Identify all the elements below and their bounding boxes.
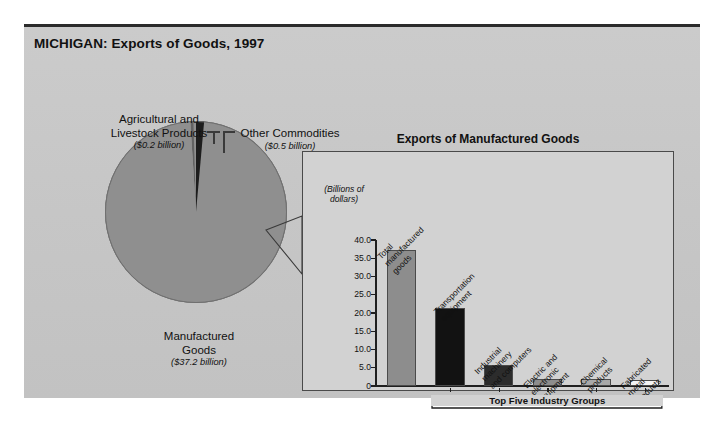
y-axis-tick [371,312,376,313]
y-axis-tick [371,385,376,386]
pie-label-manufactured-goods: Manufactured Goods ($37.2 billion) [119,330,279,368]
pie-label-agricultural-line1: Agricultural and [84,113,234,127]
y-axis-tick-label: 25.0 [331,289,371,299]
pie-label-agricultural: Agricultural and Livestock Products ($0.… [84,113,234,151]
y-axis-tick [371,276,376,277]
y-axis-tick-label: 40.0 [331,235,371,245]
y-axis-tick-label: 10.0 [331,344,371,354]
y-axis-tick [371,331,376,332]
bar-chart-panel: (Billions of dollars) 40.035.030.025.020… [302,151,674,391]
pie-label-manufactured-line1: Manufactured [119,330,279,344]
y-axis-tick [371,258,376,259]
y-axis-tick-label: 5.0 [331,362,371,372]
bar-series [377,240,669,386]
y-axis-tick-label: 35.0 [331,253,371,263]
y-axis-tick-label: 15.0 [331,326,371,336]
x-axis-tick [596,388,597,392]
figure-panel: MICHIGAN: Exports of Goods, 1997 Agricul… [24,24,700,398]
x-axis-tick [499,388,500,392]
y-axis-tick-labels: 40.035.030.025.020.015.010.05.00 [327,152,371,390]
y-axis-tick [371,294,376,295]
y-axis-tick [371,239,376,240]
bar [435,308,464,386]
y-axis-tick [371,367,376,368]
pie-label-manufactured-amount: ($37.2 billion) [119,357,279,368]
y-axis-tick-label: 0 [331,381,371,391]
pie-label-agricultural-amount: ($0.2 billion) [84,140,234,151]
bar-chart-plot: (Billions of dollars) 40.035.030.025.020… [303,152,673,390]
x-axis-tick [547,388,548,392]
y-axis-tick-label: 30.0 [331,271,371,281]
pie-label-manufactured-line2: Goods [119,344,279,358]
pie-label-agricultural-line2: Livestock Products [84,127,234,141]
y-axis-tick-label: 20.0 [331,308,371,318]
industry-groups-bracket-label: Top Five Industry Groups [431,395,663,406]
x-axis-tick [450,388,451,392]
y-axis-tick [371,349,376,350]
bar-chart-title: Exports of Manufactured Goods [302,132,674,146]
x-axis-tick [645,388,646,392]
